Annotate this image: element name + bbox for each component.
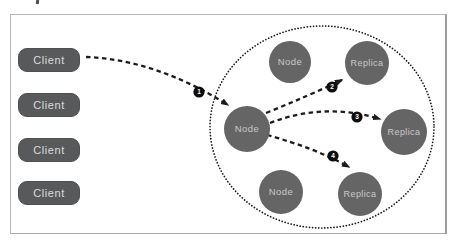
step-badge-4-number: 4	[331, 152, 335, 159]
step-badge-3-number: 3	[355, 113, 359, 120]
node-bottom-label: Node	[269, 186, 293, 197]
replica-right-label: Replica	[388, 127, 421, 137]
arrow-client-to-node	[86, 57, 228, 105]
node-center-label: Node	[235, 123, 259, 134]
node-center: Node	[224, 106, 270, 152]
node-top: Node	[269, 41, 311, 83]
step-badge-1: 1	[193, 86, 204, 97]
arrow-node-to-replica-2	[270, 111, 380, 123]
diagram-stage: Client Client Client Client Node Node	[0, 0, 455, 249]
replica-top: Replica	[345, 41, 389, 85]
diagram-canvas: Node Node Node Replica Replica Replica 1	[0, 0, 455, 249]
node-top-label: Node	[278, 56, 302, 67]
arrow-node-to-replica-3	[267, 135, 349, 167]
node-bottom: Node	[259, 170, 303, 214]
step-badge-2: 2	[326, 81, 337, 92]
replica-right: Replica	[381, 109, 427, 155]
replica-bottom-label: Replica	[344, 189, 377, 199]
step-badge-3: 3	[351, 111, 362, 122]
step-badge-4: 4	[327, 150, 338, 161]
step-badge-1-number: 1	[197, 88, 201, 95]
step-badge-2-number: 2	[330, 83, 334, 90]
replica-bottom: Replica	[338, 172, 382, 216]
replica-top-label: Replica	[351, 58, 384, 68]
